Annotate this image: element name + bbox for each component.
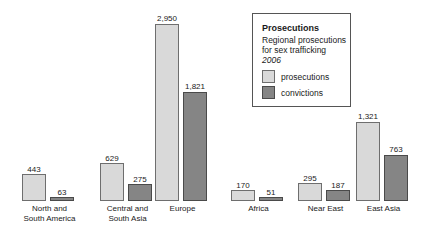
bar-column-convictions: 275: [128, 23, 152, 201]
bar-prosecutions[interactable]: [22, 174, 46, 201]
bar-column-convictions: 1,821: [183, 23, 207, 201]
legend-subtitle: Regional prosecutions for sex traffickin…: [262, 35, 350, 55]
bar-prosecutions[interactable]: [356, 122, 380, 201]
bar-pair: 1,321 763: [356, 23, 408, 201]
bar-convictions[interactable]: [128, 184, 152, 201]
bar-value-label: 1,321: [358, 112, 378, 121]
bar-value-label: 629: [105, 154, 118, 163]
bar-value-label: 2,950: [157, 14, 177, 23]
group-label-africa: Africa: [221, 204, 296, 214]
bar-pair: 443 63: [22, 23, 74, 201]
bar-column-prosecutions: 2,950: [155, 23, 179, 201]
bar-column-prosecutions: 629: [100, 23, 124, 201]
bar-value-label: 763: [389, 145, 402, 154]
bar-value-label: 443: [27, 165, 40, 174]
bar-column-convictions: 763: [384, 23, 408, 201]
bar-convictions[interactable]: [50, 197, 74, 201]
legend-label-prosecutions: prosecutions: [281, 72, 329, 82]
group-label-east-asia: East Asia: [346, 204, 421, 214]
plot-area: 443 63 North and South America 629 275: [0, 0, 442, 240]
bar-prosecutions[interactable]: [231, 190, 255, 201]
group-label-europe: Europe: [145, 204, 220, 214]
bar-column-prosecutions: 443: [22, 23, 46, 201]
legend-year: 2006: [262, 55, 350, 66]
bar-chart: 443 63 North and South America 629 275: [0, 0, 442, 240]
bar-value-label: 170: [236, 181, 249, 190]
bar-value-label: 295: [303, 174, 316, 183]
bar-value-label: 63: [58, 188, 67, 197]
bar-value-label: 187: [331, 181, 344, 190]
bar-prosecutions[interactable]: [155, 24, 179, 201]
bar-pair: 629 275: [100, 23, 152, 201]
bar-prosecutions[interactable]: [298, 183, 322, 201]
legend-swatch-prosecutions-icon: [262, 70, 275, 83]
bar-convictions[interactable]: [384, 155, 408, 201]
bar-prosecutions[interactable]: [100, 163, 124, 201]
legend-label-convictions: convictions: [281, 88, 323, 98]
bar-column-prosecutions: 1,321: [356, 23, 380, 201]
bar-pair: 2,950 1,821: [155, 23, 207, 201]
bar-convictions[interactable]: [259, 197, 283, 201]
legend-item-prosecutions[interactable]: prosecutions: [262, 70, 350, 83]
chart-legend: Prosecutions Regional prosecutions for s…: [252, 13, 351, 107]
bar-value-label: 1,821: [185, 82, 205, 91]
legend-title: Prosecutions: [262, 23, 350, 34]
group-label-north-and-south-america: North and South America: [12, 204, 87, 223]
bar-value-label: 275: [133, 175, 146, 184]
bar-convictions[interactable]: [326, 190, 350, 201]
legend-swatch-convictions-icon: [262, 86, 275, 99]
bar-convictions[interactable]: [183, 92, 207, 201]
bar-column-convictions: 63: [50, 23, 74, 201]
legend-item-convictions[interactable]: convictions: [262, 86, 350, 99]
bar-value-label: 51: [267, 188, 276, 197]
